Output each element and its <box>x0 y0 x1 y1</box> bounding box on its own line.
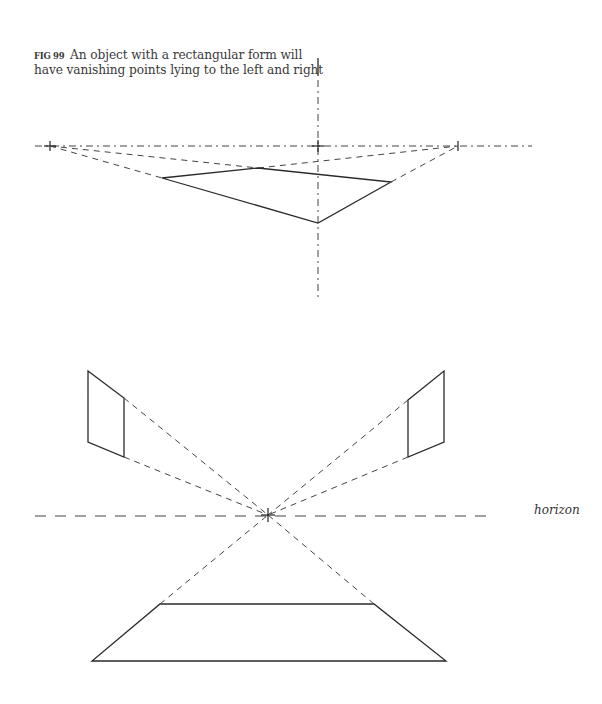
construction-line <box>268 457 408 515</box>
right-wall-panel <box>408 371 444 457</box>
construction-line <box>160 515 268 604</box>
horizon-label: horizon <box>534 503 580 517</box>
construction-line <box>50 146 162 178</box>
construction-line <box>268 400 408 515</box>
construction-line <box>258 146 458 168</box>
one-point-perspective-diagram <box>35 371 488 661</box>
two-point-perspective-diagram <box>35 58 532 298</box>
construction-line <box>268 515 374 604</box>
construction-line <box>50 146 258 168</box>
floor-trapezoid <box>92 604 446 661</box>
construction-line <box>391 146 458 182</box>
perspective-diagram <box>0 0 602 704</box>
rectangular-object <box>162 168 391 223</box>
construction-line <box>124 457 268 515</box>
center-cross <box>312 140 324 152</box>
center-vanishing-point <box>261 508 275 522</box>
construction-line <box>124 398 268 515</box>
left-wall-panel <box>88 371 124 457</box>
